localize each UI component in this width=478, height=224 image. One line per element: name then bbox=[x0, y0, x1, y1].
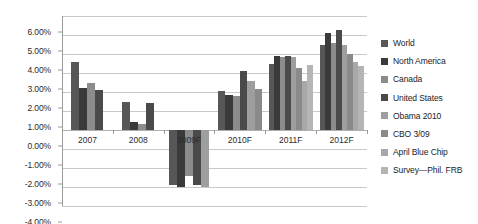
legend-swatch-icon bbox=[381, 149, 388, 156]
bar-rect bbox=[146, 103, 154, 130]
bar bbox=[138, 16, 146, 206]
bar bbox=[87, 16, 95, 206]
bar bbox=[201, 16, 209, 206]
bar-groups: 200720082009F2010F2011F2012F bbox=[62, 16, 367, 206]
bar bbox=[240, 16, 247, 206]
bar-rect bbox=[87, 83, 95, 130]
legend-swatch-icon bbox=[381, 112, 388, 119]
legend-item[interactable]: CBO 3/09 bbox=[381, 129, 478, 139]
y-axis-tick-label: 3.00% bbox=[27, 84, 51, 94]
y-axis-tick-label: 1.00% bbox=[27, 122, 51, 132]
bar bbox=[255, 16, 262, 206]
legend-swatch-icon bbox=[381, 76, 388, 83]
bars bbox=[214, 16, 265, 206]
bar-group: 2009F bbox=[164, 16, 215, 206]
y-axis-tick-label: -1.00% bbox=[25, 160, 51, 170]
bar-rect bbox=[225, 95, 232, 130]
bar bbox=[95, 16, 103, 206]
bar bbox=[358, 16, 364, 206]
y-axis-tick-label: 0.00% bbox=[27, 141, 51, 151]
bar-rect bbox=[138, 124, 146, 130]
legend-item[interactable]: Survey—Phil. FRB bbox=[381, 165, 478, 175]
bars bbox=[164, 16, 215, 206]
x-axis-tick-label: 2011F bbox=[265, 135, 316, 145]
legend-item-label: North America bbox=[393, 56, 446, 66]
bar bbox=[79, 16, 87, 206]
bar bbox=[130, 16, 138, 206]
bar-rect bbox=[307, 65, 313, 130]
y-axis-tick-label: -2.00% bbox=[25, 179, 51, 189]
bar-rect bbox=[240, 71, 247, 130]
bar bbox=[193, 16, 201, 206]
legend-item[interactable]: Canada bbox=[381, 74, 478, 84]
legend-item[interactable]: April Blue Chip bbox=[381, 147, 478, 157]
legend-item-label: Obama 2010 bbox=[393, 111, 441, 121]
bar-rect bbox=[95, 90, 103, 130]
plot-area: 200720082009F2010F2011F2012F bbox=[62, 16, 367, 206]
bar bbox=[122, 16, 130, 206]
bar bbox=[177, 16, 185, 206]
legend-item-label: World bbox=[393, 38, 415, 48]
bar-group: 2012F bbox=[316, 16, 367, 206]
legend-item-label: Survey—Phil. FRB bbox=[393, 165, 462, 175]
bar bbox=[185, 16, 193, 206]
x-axis-tick-label: 2007 bbox=[62, 135, 113, 145]
bar bbox=[247, 16, 254, 206]
x-axis-tick-label: 2012F bbox=[316, 135, 367, 145]
bar-rect bbox=[130, 122, 138, 130]
legend-item-label: CBO 3/09 bbox=[393, 129, 430, 139]
bar-rect bbox=[79, 88, 87, 130]
legend-item[interactable]: United States bbox=[381, 93, 478, 103]
bar bbox=[225, 16, 232, 206]
legend-item-label: United States bbox=[393, 93, 443, 103]
legend-swatch-icon bbox=[381, 130, 388, 137]
bar-rect bbox=[218, 91, 225, 130]
bars bbox=[316, 16, 367, 206]
x-axis-tick-label: 2008 bbox=[113, 135, 164, 145]
bar bbox=[169, 16, 177, 206]
y-axis-tick-label: 5.00% bbox=[27, 46, 51, 56]
bars bbox=[62, 16, 113, 206]
legend-swatch-icon bbox=[381, 40, 388, 47]
bar bbox=[307, 16, 313, 206]
bar bbox=[218, 16, 225, 206]
bar-rect bbox=[71, 62, 79, 130]
y-axis-tick-mark bbox=[58, 222, 62, 223]
y-axis-tick-label: 6.00% bbox=[27, 27, 51, 37]
bar-group: 2007 bbox=[62, 16, 113, 206]
bar-group: 2010F bbox=[214, 16, 265, 206]
bars bbox=[113, 16, 164, 206]
legend-item-label: Canada bbox=[393, 74, 422, 84]
y-axis: 6.00%5.00%4.00%3.00%2.00%1.00%0.00%-1.00… bbox=[0, 16, 58, 206]
x-axis-tick-label: 2010F bbox=[214, 135, 265, 145]
bars bbox=[265, 16, 316, 206]
legend-item[interactable]: World bbox=[381, 38, 478, 48]
bar-chart: 6.00%5.00%4.00%3.00%2.00%1.00%0.00%-1.00… bbox=[0, 0, 478, 224]
legend-swatch-icon bbox=[381, 94, 388, 101]
x-axis-tick-mark bbox=[367, 130, 368, 134]
bar-rect bbox=[358, 66, 364, 130]
bar-rect bbox=[233, 96, 240, 130]
bar-group: 2011F bbox=[265, 16, 316, 206]
gridline bbox=[62, 206, 367, 207]
bar-group: 2008 bbox=[113, 16, 164, 206]
bar bbox=[146, 16, 154, 206]
bar-rect bbox=[247, 81, 254, 130]
bar-rect bbox=[255, 89, 262, 130]
bar bbox=[71, 16, 79, 206]
legend-item[interactable]: Obama 2010 bbox=[381, 111, 478, 121]
y-axis-tick-label: 2.00% bbox=[27, 103, 51, 113]
y-axis-tick-label: -4.00% bbox=[25, 217, 51, 224]
legend-swatch-icon bbox=[381, 167, 388, 174]
y-axis-tick-label: 4.00% bbox=[27, 65, 51, 75]
bar-rect bbox=[122, 102, 130, 131]
legend-item[interactable]: North America bbox=[381, 56, 478, 66]
x-axis-tick-label: 2009F bbox=[164, 135, 215, 145]
chart-legend: WorldNorth AmericaCanadaUnited StatesOba… bbox=[381, 38, 478, 184]
bar bbox=[233, 16, 240, 206]
legend-item-label: April Blue Chip bbox=[393, 147, 448, 157]
y-axis-tick-label: -3.00% bbox=[25, 198, 51, 208]
legend-swatch-icon bbox=[381, 58, 388, 65]
